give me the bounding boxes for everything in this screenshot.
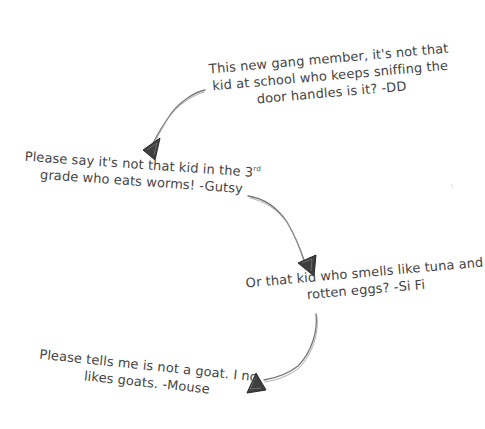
arrow-shaft-sketch [250, 198, 303, 259]
ordinal-suffix: rd [253, 165, 261, 173]
arrow-sifi-to-mouse [247, 314, 317, 393]
arrow-gutsy-to-sifi [248, 196, 316, 276]
stray-pencil-mark [451, 184, 453, 188]
arrow-dd-to-gutsy [143, 90, 205, 160]
arrow-shaft [264, 314, 316, 380]
arrow-shaft [248, 196, 304, 260]
